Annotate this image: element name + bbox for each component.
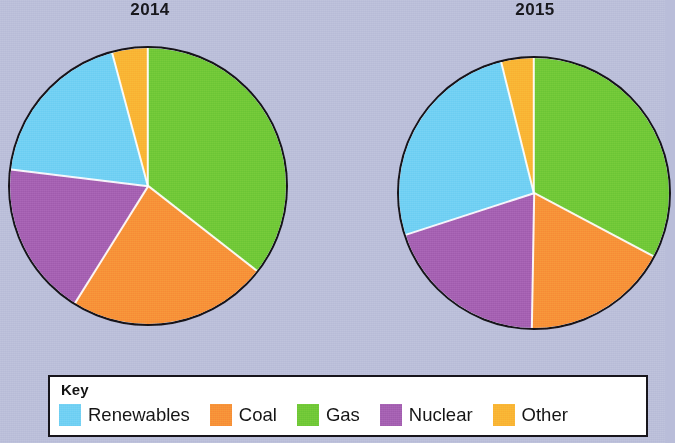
legend-title: Key	[61, 381, 89, 398]
pie-divider-nuclear	[74, 186, 148, 304]
legend-swatch-other	[493, 404, 515, 426]
pie-divider-other	[112, 52, 149, 186]
pie-slice-dividers-2015	[399, 58, 669, 328]
pie-divider-other	[501, 62, 535, 193]
pie-divider-gas	[147, 48, 149, 186]
chart-title-2015: 2015	[385, 0, 675, 20]
pie-divider-nuclear	[531, 193, 535, 328]
pie-2015	[397, 56, 671, 330]
legend-key-box: Key RenewablesCoalGasNuclearOther	[48, 375, 648, 437]
pie-chart-2015: 2015	[385, 0, 675, 340]
pie-divider-renewables	[11, 168, 148, 186]
legend-swatch-gas	[297, 404, 319, 426]
pie-chart-2014: 2014	[0, 0, 300, 340]
pie-divider-renewables	[405, 192, 534, 235]
legend-label-coal: Coal	[239, 404, 277, 426]
legend-item-nuclear[interactable]: Nuclear	[380, 404, 473, 426]
legend-label-renewables: Renewables	[88, 404, 190, 426]
legend-label-other: Other	[522, 404, 568, 426]
legend-swatch-nuclear	[380, 404, 402, 426]
legend-swatch-coal	[210, 404, 232, 426]
legend-label-nuclear: Nuclear	[409, 404, 473, 426]
legend-item-renewables[interactable]: Renewables	[59, 404, 190, 426]
legend-items: RenewablesCoalGasNuclearOther	[59, 404, 640, 426]
legend-label-gas: Gas	[326, 404, 360, 426]
legend-item-gas[interactable]: Gas	[297, 404, 360, 426]
pie-divider-coal	[534, 192, 654, 257]
legend-item-other[interactable]: Other	[493, 404, 568, 426]
chart-title-2014: 2014	[0, 0, 300, 20]
pie-divider-gas	[533, 58, 535, 193]
pie-2014	[8, 46, 288, 326]
legend-swatch-renewables	[59, 404, 81, 426]
pie-slice-dividers-2014	[10, 48, 286, 324]
pie-divider-coal	[148, 185, 258, 271]
legend-item-coal[interactable]: Coal	[210, 404, 277, 426]
